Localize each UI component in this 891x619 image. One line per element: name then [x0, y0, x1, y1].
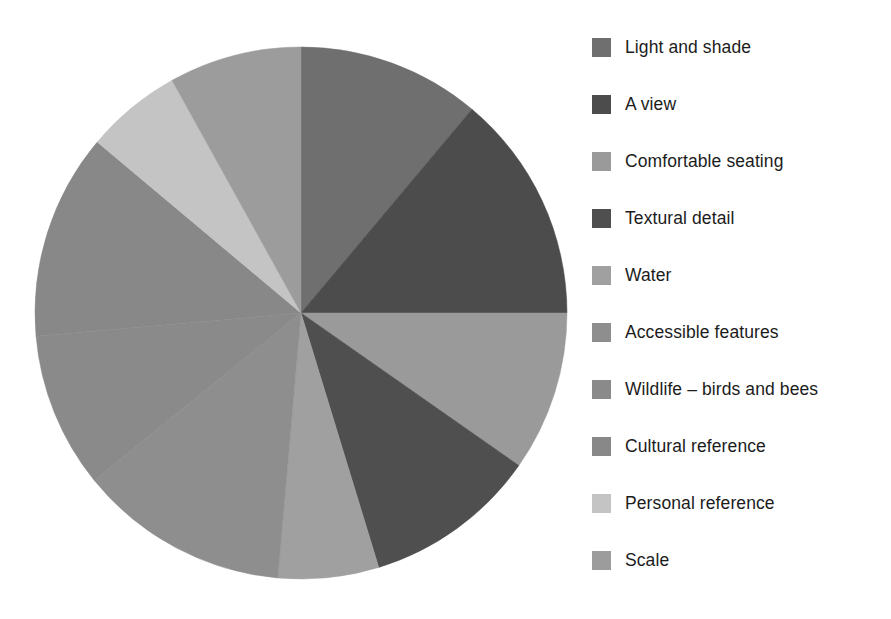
legend-label-water: Water — [625, 266, 672, 285]
legend-item-textural-detail[interactable]: Textural detail — [592, 209, 884, 227]
legend-swatch-scale — [592, 551, 611, 570]
legend-swatch-comfortable-seating — [592, 152, 611, 171]
legend-item-personal-reference[interactable]: Personal reference — [592, 494, 884, 512]
legend-item-wildlife[interactable]: Wildlife – birds and bees — [592, 380, 884, 398]
legend-item-a-view[interactable]: A view — [592, 95, 884, 113]
legend-item-scale[interactable]: Scale — [592, 551, 884, 569]
chart-legend: Light and shade A view Comfortable seati… — [592, 38, 884, 608]
pie-chart-svg — [0, 0, 580, 619]
legend-label-scale: Scale — [625, 551, 669, 570]
legend-swatch-wildlife — [592, 380, 611, 399]
pie-chart-area — [0, 0, 580, 619]
legend-swatch-textural-detail — [592, 209, 611, 228]
legend-item-accessible-features[interactable]: Accessible features — [592, 323, 884, 341]
legend-label-wildlife: Wildlife – birds and bees — [625, 380, 818, 399]
legend-swatch-water — [592, 266, 611, 285]
legend-swatch-a-view — [592, 95, 611, 114]
legend-label-personal-reference: Personal reference — [625, 494, 775, 513]
legend-label-accessible-features: Accessible features — [625, 323, 779, 342]
legend-label-a-view: A view — [625, 95, 676, 114]
legend-label-comfortable-seating: Comfortable seating — [625, 152, 784, 171]
pie-slices-group — [35, 47, 567, 579]
legend-label-cultural-reference: Cultural reference — [625, 437, 766, 456]
legend-item-light-and-shade[interactable]: Light and shade — [592, 38, 884, 56]
legend-item-water[interactable]: Water — [592, 266, 884, 284]
legend-swatch-light-and-shade — [592, 38, 611, 57]
legend-label-textural-detail: Textural detail — [625, 209, 734, 228]
legend-swatch-personal-reference — [592, 494, 611, 513]
legend-label-light-and-shade: Light and shade — [625, 38, 751, 57]
legend-swatch-accessible-features — [592, 323, 611, 342]
legend-swatch-cultural-reference — [592, 437, 611, 456]
legend-item-comfortable-seating[interactable]: Comfortable seating — [592, 152, 884, 170]
pie-chart-figure: Light and shade A view Comfortable seati… — [0, 0, 891, 619]
legend-item-cultural-reference[interactable]: Cultural reference — [592, 437, 884, 455]
